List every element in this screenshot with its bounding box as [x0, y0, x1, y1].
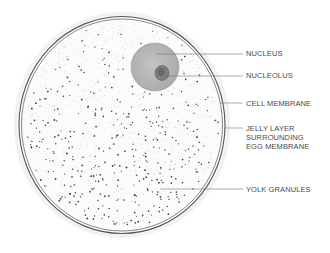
label-line: JELLY LAYER	[246, 124, 309, 133]
label-nucleus: NUCLEUS	[246, 49, 283, 58]
label-line: NUCLEOLUS	[246, 71, 293, 80]
label-yolk-granules: YOLK GRANULES	[246, 185, 311, 194]
label-jelly-layer: JELLY LAYER SURROUNDING EGG MEMBRANE	[246, 124, 309, 151]
label-line: YOLK GRANULES	[246, 185, 311, 194]
label-nucleolus: NUCLEOLUS	[246, 71, 293, 80]
label-line: SURROUNDING	[246, 133, 309, 142]
label-line: EGG MEMBRANE	[246, 142, 309, 151]
label-line: NUCLEUS	[246, 49, 283, 58]
cytoplasm	[22, 20, 222, 230]
nucleolus-core	[158, 68, 165, 76]
label-line: CELL MEMBRANE	[246, 99, 311, 108]
label-cell-membrane: CELL MEMBRANE	[246, 99, 311, 108]
nucleus	[131, 43, 179, 91]
